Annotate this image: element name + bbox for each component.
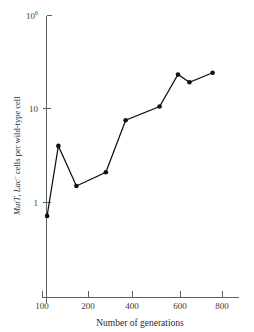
data-markers: [45, 70, 215, 218]
x-axis-title: Number of generations: [96, 318, 184, 328]
chart-figure: 106 10 1 100 200 400 600 800 Number of g…: [0, 0, 254, 332]
x-ticklabel-600: 600: [173, 301, 187, 311]
data-point: [45, 214, 50, 219]
data-point: [157, 104, 162, 109]
y-ticklabel-10: 10: [29, 104, 39, 114]
y-axis-title-lac: Lac: [12, 179, 22, 193]
data-polyline: [47, 73, 212, 216]
data-point: [210, 70, 215, 75]
data-point: [176, 72, 181, 77]
data-series-group: [45, 70, 215, 218]
data-point: [74, 184, 79, 189]
x-ticklabel-100: 100: [35, 301, 49, 311]
y-axis-title-rest: cells per wild-type cell: [12, 96, 22, 176]
chart-svg: 106 10 1 100 200 400 600 800 Number of g…: [0, 0, 254, 332]
x-ticklabel-200: 200: [81, 301, 95, 311]
y-axis-title-mutt: MutT: [12, 195, 22, 216]
y-axis-title: MutT, Lac− cells per wild-type cell: [12, 96, 23, 216]
x-ticklabel-400: 400: [125, 301, 139, 311]
x-ticklabel-800: 800: [215, 301, 229, 311]
data-point: [104, 170, 109, 175]
data-point: [56, 144, 61, 149]
data-point: [187, 80, 192, 85]
y-ticklabel-1: 1: [34, 198, 39, 208]
y-ticklabel-1e6: 106: [26, 10, 38, 21]
data-point: [123, 118, 128, 123]
